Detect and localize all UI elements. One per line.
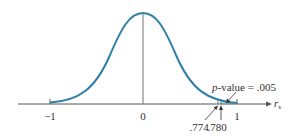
arrow-774 [205, 108, 216, 120]
tick-label-zero: 0 [140, 110, 146, 122]
x-axis-arrow-icon [266, 102, 272, 107]
marker-label-780: .780 [207, 121, 227, 133]
arrow-780-head-icon [219, 105, 223, 110]
arrow-774-head-icon [214, 106, 219, 111]
p-value-arrow [228, 92, 236, 101]
normal-curve-chart: −1 0 1 .774 .780 p-value = .005 rs [0, 0, 290, 138]
tick-label-one: 1 [234, 110, 240, 122]
marker-label-774: .774 [189, 121, 209, 133]
x-axis-label: rs [274, 97, 281, 111]
tick-label-minus-one: −1 [44, 110, 56, 122]
p-value-annotation: p-value = .005 [211, 81, 276, 93]
